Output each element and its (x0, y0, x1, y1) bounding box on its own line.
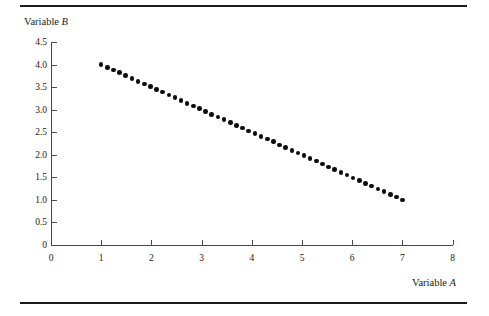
x-axis-tick-label: 8 (441, 253, 465, 263)
x-axis-tick-label: 4 (240, 253, 264, 263)
scatter-point (277, 143, 282, 148)
scatter-point (123, 73, 128, 78)
scatter-point (320, 162, 325, 167)
plot-area: 00.51.01.52.02.53.03.54.04.5 012345678 (0, 0, 489, 316)
x-axis-tick (453, 240, 454, 245)
scatter-point (302, 153, 307, 158)
y-axis-tick-label: 2.0 (21, 150, 47, 160)
y-axis-tick (52, 65, 57, 66)
scatter-point (259, 134, 264, 139)
scatter-point (173, 95, 178, 100)
y-axis-tick-label: 0 (21, 240, 47, 250)
scatter-point (99, 62, 104, 67)
y-axis-tick (52, 222, 57, 223)
scatter-point (290, 148, 295, 153)
y-axis-tick (52, 110, 57, 111)
scatter-point (234, 123, 239, 128)
x-axis-tick-label: 6 (340, 253, 364, 263)
x-axis-tick (151, 240, 152, 245)
scatter-point (363, 181, 368, 186)
scatter-point (388, 192, 393, 197)
scatter-point (136, 79, 141, 84)
x-axis-tick-label: 5 (290, 253, 314, 263)
scatter-point (117, 70, 122, 75)
scatter-point (314, 159, 319, 164)
scatter-point (345, 173, 350, 178)
scatter-point (142, 82, 147, 87)
y-axis-tick-label: 0.5 (21, 217, 47, 227)
scatter-point (209, 112, 214, 117)
scatter-point (400, 198, 405, 203)
scatter-point (253, 131, 258, 136)
scatter-point (332, 167, 337, 172)
scatter-point (394, 195, 399, 200)
scatter-point (326, 165, 331, 170)
y-axis-tick-label: 3.0 (21, 105, 47, 115)
scatter-point (130, 76, 135, 81)
scatter-point (283, 145, 288, 150)
x-axis-tick-label: 0 (39, 253, 63, 263)
scatter-point (179, 98, 184, 103)
scatter-point (160, 90, 165, 95)
x-axis-tick (352, 240, 353, 245)
scatter-point (265, 137, 270, 142)
y-axis-tick (52, 87, 57, 88)
scatter-point (197, 106, 202, 111)
scatter-point (167, 93, 172, 98)
scatter-point (203, 109, 208, 114)
x-axis-tick (202, 240, 203, 245)
x-axis-tick-label: 3 (190, 253, 214, 263)
y-axis-tick-label: 1.0 (21, 195, 47, 205)
scatter-point (185, 101, 190, 106)
scatter-point (228, 120, 233, 125)
scatter-point (148, 84, 153, 89)
x-axis-tick (101, 240, 102, 245)
scatter-point (339, 170, 344, 175)
y-axis-tick-label: 4.5 (21, 37, 47, 47)
scatter-point (369, 184, 374, 189)
scatter-point (376, 187, 381, 192)
x-axis-tick-label: 2 (139, 253, 163, 263)
x-axis-tick (302, 240, 303, 245)
x-axis-tick (252, 240, 253, 245)
scatter-point (308, 156, 313, 161)
scatter-point (154, 87, 159, 92)
y-axis-tick-label: 3.5 (21, 82, 47, 92)
figure-container: Variable B Variable A 00.51.01.52.02.53.… (0, 0, 489, 316)
y-axis-tick (52, 42, 57, 43)
scatter-point (240, 126, 245, 131)
scatter-point (111, 68, 116, 73)
x-axis-tick-label: 7 (390, 253, 414, 263)
y-axis-tick-label: 4.0 (21, 60, 47, 70)
x-axis-line (51, 245, 453, 246)
scatter-point (105, 65, 110, 70)
scatter-point (382, 189, 387, 194)
y-axis-tick (52, 155, 57, 156)
scatter-point (191, 104, 196, 109)
y-axis-tick (52, 177, 57, 178)
scatter-point (271, 139, 276, 144)
scatter-point (351, 176, 356, 181)
x-axis-tick (402, 240, 403, 245)
scatter-point (216, 115, 221, 120)
scatter-point (296, 151, 301, 156)
y-axis-line (51, 42, 52, 246)
scatter-point (357, 178, 362, 183)
y-axis-tick (52, 132, 57, 133)
x-axis-tick-label: 1 (89, 253, 113, 263)
scatter-point (222, 117, 227, 122)
y-axis-tick-label: 1.5 (21, 172, 47, 182)
scatter-point (246, 129, 251, 134)
y-axis-tick (52, 245, 57, 246)
y-axis-tick (52, 200, 57, 201)
y-axis-tick-label: 2.5 (21, 127, 47, 137)
